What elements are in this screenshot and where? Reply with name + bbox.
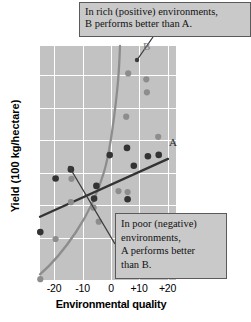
point-b	[68, 199, 74, 205]
point-a	[124, 196, 131, 203]
point-a	[145, 153, 152, 160]
callout-bottom-line-3: A performs better	[121, 244, 222, 258]
series-a-line	[40, 159, 168, 217]
point-a	[155, 152, 162, 159]
chart-figure: 110 100 90 80 70 60 50 -20 -10 0 +10 +20…	[0, 0, 251, 322]
callout-top-line-1: In rich (positive) environments,	[85, 6, 246, 18]
point-b	[123, 114, 129, 120]
point-b	[125, 70, 131, 76]
point-b	[143, 76, 149, 82]
point-b	[68, 176, 74, 182]
point-b	[144, 89, 150, 95]
callout-bottom-line-2: environments,	[121, 231, 222, 245]
leader-anchor-top	[135, 58, 139, 62]
callout-rich-environments: In rich (positive) environments, B perfo…	[79, 2, 251, 37]
point-a	[124, 145, 131, 152]
point-b	[37, 276, 43, 282]
point-a	[93, 183, 100, 190]
point-a	[37, 229, 44, 236]
point-a	[91, 195, 98, 202]
callout-bottom-line-1: In poor (negative)	[121, 217, 222, 231]
point-b	[155, 134, 161, 140]
curve-label-b: B	[143, 40, 150, 52]
callout-poor-environments: In poor (negative) environments, A perfo…	[115, 213, 227, 279]
leader-anchor-bottom	[68, 166, 72, 170]
point-a	[131, 162, 138, 169]
callout-top-line-2: B performs better than A.	[85, 18, 246, 30]
point-a	[106, 152, 113, 159]
callout-bottom-line-4: than B.	[121, 258, 222, 272]
point-b	[53, 236, 59, 242]
point-b	[115, 188, 121, 194]
point-a	[52, 175, 59, 182]
series-b-curve	[40, 46, 120, 274]
point-b	[125, 189, 131, 195]
curve-label-a: A	[169, 136, 177, 148]
